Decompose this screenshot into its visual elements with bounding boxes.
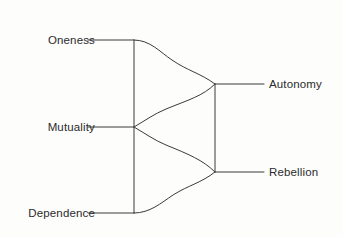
diagram-canvas: Oneness Mutuality Dependence Autonomy Re… <box>0 0 343 237</box>
node-label-rebellion: Rebellion <box>269 167 318 179</box>
curve-oneness-to-autonomy <box>134 40 215 84</box>
curve-mutuality-to-rebellion <box>134 127 215 172</box>
node-label-oneness: Oneness <box>48 35 95 47</box>
node-label-mutuality: Mutuality <box>48 122 95 134</box>
node-label-dependence: Dependence <box>28 208 95 220</box>
node-label-autonomy: Autonomy <box>269 79 322 91</box>
curve-dependence-to-rebellion <box>134 172 215 213</box>
curve-mutuality-to-autonomy <box>134 84 215 127</box>
